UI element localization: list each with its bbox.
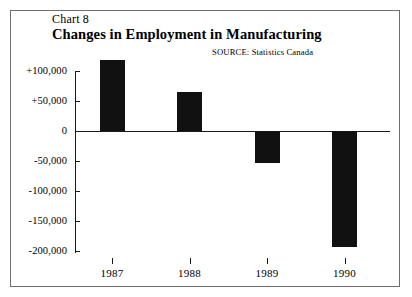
chart-title: Changes in Employment in Manufacturing xyxy=(52,26,322,43)
chart-source-note: SOURCE: Statistics Canada xyxy=(212,47,313,58)
figure-frame xyxy=(10,10,400,287)
chart-number-label: Chart 8 xyxy=(52,12,89,26)
